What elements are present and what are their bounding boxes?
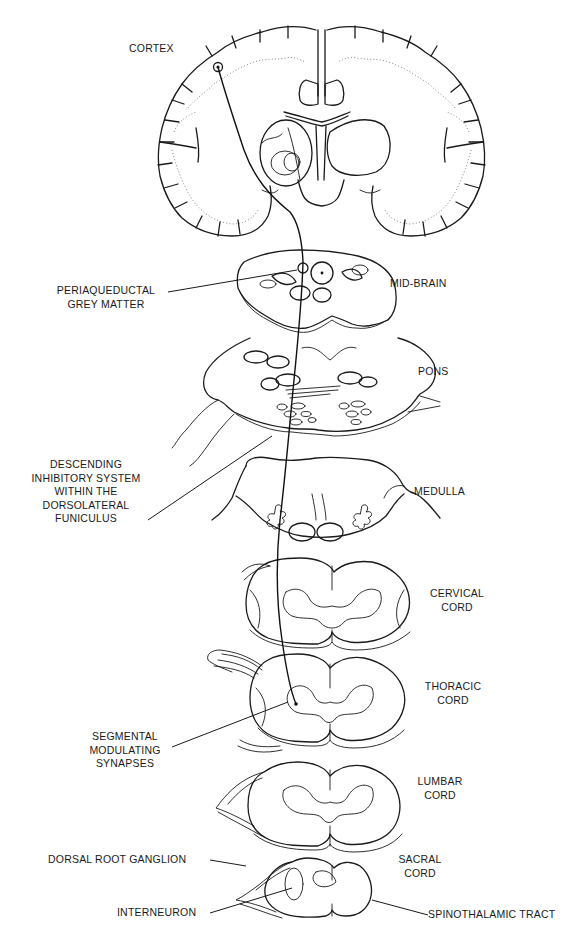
leader-segmental bbox=[172, 702, 288, 747]
annotation-line: MODULATING bbox=[78, 744, 172, 758]
leader-spinothalamic bbox=[372, 900, 428, 915]
pons-section bbox=[172, 338, 440, 466]
brain-coronal-section bbox=[158, 26, 485, 236]
label-medulla: MEDULLA bbox=[414, 485, 465, 499]
annotation-line: WITHIN THE bbox=[24, 485, 148, 499]
label-line: CORD bbox=[424, 601, 490, 615]
annotation-line: GREY MATTER bbox=[44, 298, 168, 312]
label-sacral-cord: SACRAL CORD bbox=[390, 853, 450, 880]
medulla-section bbox=[212, 457, 440, 541]
label-line: CORD bbox=[420, 694, 486, 708]
label-line: SACRAL bbox=[390, 853, 450, 867]
leader-drg bbox=[210, 860, 246, 866]
annotation-periaqueductal-grey-matter: PERIAQUEDUCTAL GREY MATTER bbox=[44, 284, 168, 311]
annotation-line: DESCENDING bbox=[24, 458, 148, 472]
annotation-descending-inhibitory-system: DESCENDING INHIBITORY SYSTEM WITHIN THE … bbox=[24, 458, 148, 526]
leader-descending bbox=[148, 436, 272, 520]
annotation-line: DORSOLATERAL bbox=[24, 499, 148, 513]
cervical-cord-section bbox=[242, 558, 410, 650]
midbrain-section bbox=[237, 250, 396, 332]
annotation-line: INHIBITORY SYSTEM bbox=[24, 472, 148, 486]
sacral-cord-section bbox=[236, 858, 372, 918]
leader-interneuron bbox=[210, 888, 292, 913]
annotation-line: FUNICULUS bbox=[24, 512, 148, 526]
annotation-dorsal-root-ganglion: DORSAL ROOT GANGLION bbox=[48, 853, 186, 867]
annotation-line: SEGMENTAL bbox=[78, 730, 172, 744]
label-line: CERVICAL bbox=[424, 587, 490, 601]
annotation-spinothalamic-tract: SPINOTHALAMIC TRACT bbox=[428, 908, 555, 922]
label-line: CORD bbox=[410, 789, 470, 803]
label-mid-brain: MID-BRAIN bbox=[390, 277, 447, 291]
label-cortex: CORTEX bbox=[129, 42, 174, 56]
label-cervical-cord: CERVICAL CORD bbox=[424, 587, 490, 614]
annotation-interneuron: INTERNEURON bbox=[117, 906, 196, 920]
annotation-line: PERIAQUEDUCTAL bbox=[44, 284, 168, 298]
label-thoracic-cord: THORACIC CORD bbox=[420, 680, 486, 707]
lumbar-cord-section bbox=[216, 762, 402, 852]
annotation-segmental-modulating-synapses: SEGMENTAL MODULATING SYNAPSES bbox=[78, 730, 172, 771]
label-pons: PONS bbox=[418, 365, 449, 379]
label-line: THORACIC bbox=[420, 680, 486, 694]
label-line: CORD bbox=[390, 867, 450, 881]
pain-pathway-diagram: CORTEX MID-BRAIN PONS MEDULLA CERVICAL C… bbox=[0, 0, 572, 937]
label-line: LUMBAR bbox=[410, 775, 470, 789]
thoracic-cord-section bbox=[208, 650, 405, 752]
annotation-line: SYNAPSES bbox=[78, 757, 172, 771]
label-lumbar-cord: LUMBAR CORD bbox=[410, 775, 470, 802]
